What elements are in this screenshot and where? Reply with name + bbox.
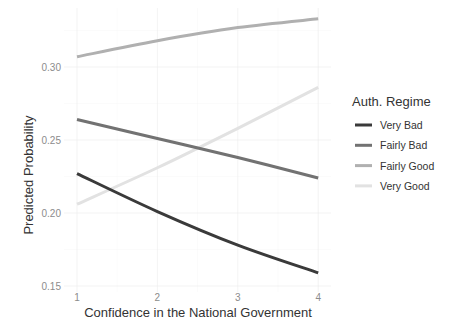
y-axis-ticks: 0.150.200.250.30 <box>42 62 62 292</box>
y-tick-label: 0.20 <box>42 208 62 219</box>
legend-title: Auth. Regime <box>352 94 431 109</box>
x-tick-label: 4 <box>315 292 321 303</box>
x-axis-ticks: 1234 <box>74 292 321 303</box>
legend-label: Very Good <box>380 180 430 192</box>
x-axis-title: Confidence in the National Government <box>84 305 312 320</box>
y-tick-label: 0.30 <box>42 62 62 73</box>
legend-label: Very Bad <box>380 119 423 131</box>
legend-label: Fairly Good <box>380 160 434 172</box>
x-tick-label: 3 <box>235 292 241 303</box>
y-tick-label: 0.25 <box>42 135 62 146</box>
x-tick-label: 2 <box>155 292 161 303</box>
x-tick-label: 1 <box>74 292 80 303</box>
line-chart: 0.150.200.250.30 1234 Confidence in the … <box>0 0 459 332</box>
legend-label: Fairly Bad <box>380 139 427 151</box>
legend: Auth. Regime Very BadFairly BadFairly Go… <box>352 94 434 192</box>
y-tick-label: 0.15 <box>42 281 62 292</box>
y-axis-title: Predicted Probability <box>21 115 36 235</box>
